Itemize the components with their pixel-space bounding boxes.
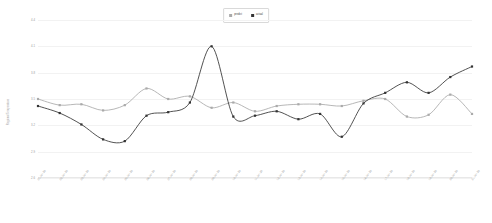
data-point-actual[interactable] <box>319 113 321 115</box>
series-line-predict <box>38 88 472 118</box>
data-point-actual[interactable] <box>428 92 430 94</box>
data-point-actual[interactable] <box>471 65 473 67</box>
data-point-predict[interactable] <box>406 115 408 117</box>
data-point-predict[interactable] <box>428 114 430 116</box>
data-point-predict[interactable] <box>297 103 299 105</box>
data-point-actual[interactable] <box>232 115 234 117</box>
x-axis-ticks: 01-Jan-2002-Jan-2003-Jan-2004-Jan-2005-J… <box>38 180 472 222</box>
data-point-predict[interactable] <box>80 103 82 105</box>
data-point-actual[interactable] <box>189 101 191 103</box>
y-axis-tick-label: 2.6 <box>31 177 35 180</box>
y-axis-tick-label: 4.1 <box>31 45 35 48</box>
data-point-actual[interactable] <box>124 140 126 142</box>
data-point-predict[interactable] <box>145 87 147 89</box>
data-point-predict[interactable] <box>362 100 364 102</box>
data-point-actual[interactable] <box>211 45 213 47</box>
y-axis-tick-label: 3.5 <box>31 98 35 101</box>
x-axis-tick-label: 21-Jan-20 <box>472 170 481 181</box>
data-point-actual[interactable] <box>449 76 451 78</box>
data-point-actual[interactable] <box>254 115 256 117</box>
data-point-predict[interactable] <box>189 95 191 97</box>
legend-label-predict: predict <box>234 14 242 17</box>
data-point-predict[interactable] <box>384 98 386 100</box>
data-point-actual[interactable] <box>59 112 61 114</box>
data-point-actual[interactable] <box>276 110 278 112</box>
data-point-predict[interactable] <box>319 103 321 105</box>
y-axis-title: Regional Temperature <box>7 98 10 124</box>
data-point-actual[interactable] <box>102 138 104 140</box>
data-point-predict[interactable] <box>232 101 234 103</box>
y-axis-tick-label: 2.9 <box>31 150 35 153</box>
legend-item-actual[interactable]: actual <box>251 14 263 17</box>
legend-label-actual: actual <box>256 14 263 17</box>
data-point-actual[interactable] <box>362 102 364 104</box>
data-point-predict[interactable] <box>59 104 61 106</box>
data-point-predict[interactable] <box>167 98 169 100</box>
y-axis-tick-label: 4.4 <box>31 19 35 22</box>
data-point-actual[interactable] <box>80 123 82 125</box>
data-point-actual[interactable] <box>406 81 408 83</box>
data-point-predict[interactable] <box>102 109 104 111</box>
legend-item-predict[interactable]: predict <box>229 14 242 17</box>
legend-swatch-actual <box>251 14 254 17</box>
data-point-actual[interactable] <box>297 118 299 120</box>
data-point-predict[interactable] <box>211 107 213 109</box>
plot-area: 2.62.93.23.53.84.14.4 <box>38 20 472 178</box>
series-line-actual <box>38 46 472 143</box>
data-point-actual[interactable] <box>384 92 386 94</box>
data-point-actual[interactable] <box>167 111 169 113</box>
data-point-predict[interactable] <box>124 104 126 106</box>
legend-swatch-predict <box>229 14 232 17</box>
data-point-predict[interactable] <box>449 94 451 96</box>
data-point-predict[interactable] <box>471 113 473 115</box>
data-point-predict[interactable] <box>276 105 278 107</box>
data-point-predict[interactable] <box>254 110 256 112</box>
data-point-actual[interactable] <box>37 105 39 107</box>
y-axis-tick-label: 3.2 <box>31 124 35 127</box>
data-point-actual[interactable] <box>341 136 343 138</box>
data-point-actual[interactable] <box>145 115 147 117</box>
series-layer <box>38 20 472 178</box>
data-point-predict[interactable] <box>37 98 39 100</box>
y-axis-tick-label: 3.8 <box>31 71 35 74</box>
line-chart: predict actual Regional Temperature 2.62… <box>0 0 492 223</box>
data-point-predict[interactable] <box>341 105 343 107</box>
